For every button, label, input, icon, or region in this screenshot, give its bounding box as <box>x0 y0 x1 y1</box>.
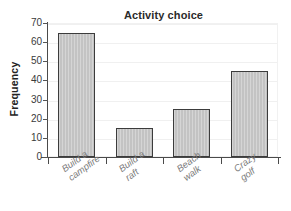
y-tick-mark <box>43 23 48 24</box>
y-tick-mark <box>43 119 48 120</box>
y-tick-label: 30 <box>2 94 42 105</box>
x-tick-mark <box>278 158 279 164</box>
y-tick-mark <box>43 100 48 101</box>
y-tick-mark <box>43 138 48 139</box>
y-tick-mark <box>43 80 48 81</box>
y-tick-label: 60 <box>2 36 42 47</box>
y-tick-label: 0 <box>2 151 42 162</box>
y-tick-mark <box>43 61 48 62</box>
bar <box>58 33 95 157</box>
y-tick-label: 10 <box>2 132 42 143</box>
bar-chart: Activity choice Frequency 01020304050607… <box>0 0 291 211</box>
y-tick-label: 70 <box>2 17 42 28</box>
x-tick-mark <box>163 158 164 164</box>
x-tick-mark <box>221 158 222 164</box>
x-tick-mark <box>106 158 107 164</box>
y-tick-label: 50 <box>2 55 42 66</box>
x-tick-mark <box>48 158 49 164</box>
y-tick-mark <box>43 42 48 43</box>
y-tick-label: 20 <box>2 113 42 124</box>
y-tick-label: 40 <box>2 74 42 85</box>
chart-title: Activity choice <box>0 9 291 21</box>
gridline <box>48 24 277 25</box>
